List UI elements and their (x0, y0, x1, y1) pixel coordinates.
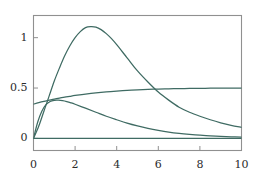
x-tick-label: 10 (222, 159, 256, 170)
y-tick-label: 0 (0, 132, 28, 143)
x-tick-label: 0 (14, 159, 54, 170)
x-tick-label: 8 (180, 159, 220, 170)
y-tick-label: 0.5 (0, 82, 28, 93)
x-tick-label: 2 (55, 159, 95, 170)
plot-area (0, 0, 255, 177)
x-tick-label: 4 (97, 159, 137, 170)
y-tick-label: 1 (0, 32, 28, 43)
chart-figure: 024681000.51 (0, 0, 255, 177)
x-tick-label: 6 (138, 159, 178, 170)
